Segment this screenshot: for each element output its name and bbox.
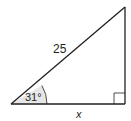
hypotenuse-line	[11, 7, 125, 104]
right-triangle-diagram: 25 31° x	[0, 0, 131, 121]
hypotenuse-label: 25	[53, 42, 67, 56]
right-angle-marker-icon	[114, 93, 125, 104]
base-label: x	[75, 108, 82, 120]
angle-label: 31°	[25, 91, 42, 103]
